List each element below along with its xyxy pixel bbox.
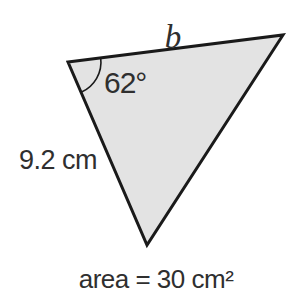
side-length-label: 9.2 cm [19, 145, 97, 175]
angle-label: 62° [104, 66, 146, 99]
diagram-svg: b 62° 9.2 cm area = 30 cm² [0, 0, 299, 302]
triangle-diagram: b 62° 9.2 cm area = 30 cm² [0, 0, 299, 302]
side-b-label: b [165, 19, 182, 55]
area-caption: area = 30 cm² [79, 264, 234, 294]
